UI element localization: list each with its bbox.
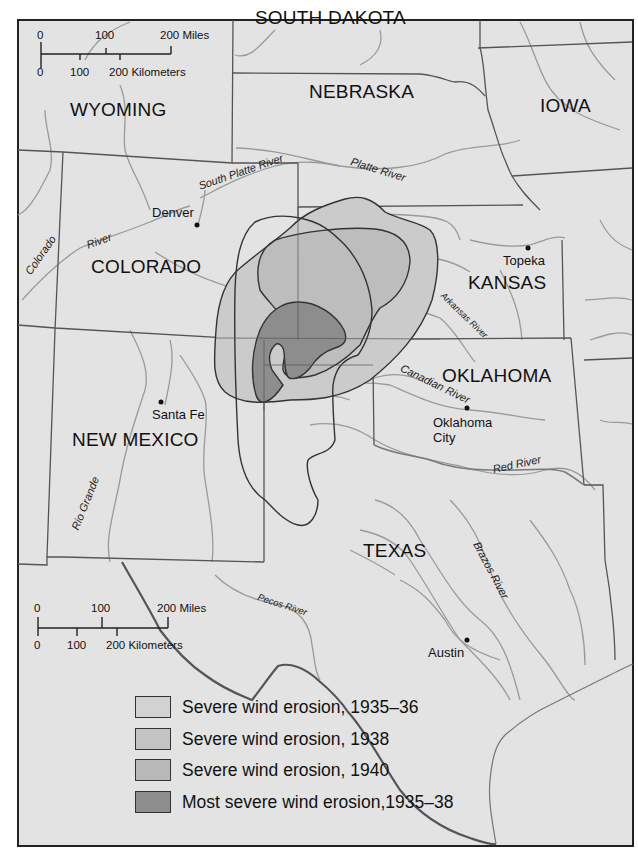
scale-top-miles-100: 100 [95,30,114,42]
scale-bottom-km-200: 200 Kilometers [106,640,183,652]
state-label-south-dakota: SOUTH DAKOTA [255,8,406,27]
scale-bottom-miles-200: 200 Miles [157,603,206,615]
scale-bottom-km-100: 100 [67,640,86,652]
scale-top-km-200: 200 Kilometers [109,67,186,79]
scale-top-km-100: 100 [70,67,89,79]
scale-bottom-miles-0: 0 [34,603,40,615]
scale-bottom-miles-100: 100 [91,603,110,615]
state-label-wyoming: WYOMING [70,100,166,119]
city-label-topeka: Topeka [503,254,545,267]
legend-swatch-1935-36 [135,696,171,718]
city-label-santa-fe: Santa Fe [152,408,205,421]
legend-item-most-severe: Most severe wind erosion,1935–38 [135,789,453,815]
state-label-oklahoma: OKLAHOMA [442,366,551,385]
city-label-austin: Austin [428,646,464,659]
state-label-kansas: KANSAS [468,273,546,292]
legend-label: Severe wind erosion, 1940 [182,760,389,781]
scale-top-miles-200: 200 Miles [160,30,209,42]
scale-top-miles-0: 0 [37,30,43,42]
state-label-texas: TEXAS [363,541,426,560]
legend-item-1938: Severe wind erosion, 1938 [135,726,389,752]
state-label-iowa: IOWA [540,96,591,115]
state-label-colorado: COLORADO [91,257,201,276]
city-label-denver: Denver [152,206,194,219]
legend-label: Most severe wind erosion,1935–38 [182,792,453,813]
state-label-new-mexico: NEW MEXICO [72,430,199,449]
city-label-oklahoma-city-line2: City [433,431,455,444]
legend-swatch-1938 [135,728,171,750]
legend-label: Severe wind erosion, 1938 [182,729,389,750]
legend-label: Severe wind erosion, 1935–36 [182,697,418,718]
legend-item-1935-36: Severe wind erosion, 1935–36 [135,694,418,720]
scale-top-km-0: 0 [37,67,43,79]
state-label-nebraska: NEBRASKA [309,82,414,101]
city-label-oklahoma-city: Oklahoma [433,416,492,429]
scale-bottom-km-0: 0 [34,640,40,652]
legend-item-1940: Severe wind erosion, 1940 [135,757,389,783]
legend-swatch-1940 [135,759,171,781]
legend-swatch-most-severe [135,791,171,813]
